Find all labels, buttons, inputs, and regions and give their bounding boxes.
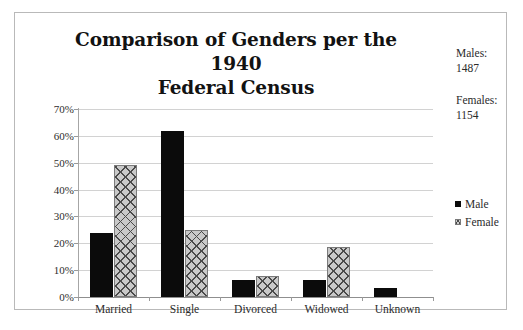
bar-male-widowed[interactable] <box>303 280 326 297</box>
bar-male-unknown[interactable] <box>374 288 397 297</box>
y-axis-tick-label: 20% <box>34 237 74 249</box>
bar-male-single[interactable] <box>161 131 184 298</box>
bar-group <box>220 109 291 297</box>
bar-female-single[interactable] <box>185 230 208 297</box>
x-axis-tick-mark <box>220 297 221 301</box>
x-axis-tick-mark <box>78 297 79 301</box>
chart-frame: Comparison of Genders per the 1940Federa… <box>14 12 507 310</box>
y-axis-tick-label: 30% <box>34 210 74 222</box>
x-axis-tick-label: Unknown <box>375 303 420 315</box>
y-axis-tick-labels: 70%60%50%40%30%20%10%0% <box>30 109 74 297</box>
x-axis-line <box>78 297 434 298</box>
x-axis-tick-label: Married <box>95 303 132 315</box>
annotation-males-count: Males: 1487 <box>456 46 487 75</box>
bar-male-divorced[interactable] <box>232 280 255 297</box>
bar-female-widowed[interactable] <box>327 247 350 297</box>
y-axis-tick-label: 50% <box>34 157 74 169</box>
chart-title-line-1: Comparison of Genders per the 1940 <box>75 29 397 74</box>
legend-swatch-icon-female <box>455 219 461 225</box>
bar-group <box>291 109 362 297</box>
y-axis-tick-label: 0% <box>34 291 74 303</box>
y-axis-tick-label: 40% <box>34 184 74 196</box>
legend-label: Male <box>465 198 489 210</box>
bar-group <box>362 109 433 297</box>
y-axis-tick-label: 70% <box>34 103 74 115</box>
bar-group <box>78 109 149 297</box>
legend-item-male[interactable]: Male <box>455 196 499 211</box>
annotation-females-count: Females: 1154 <box>456 93 498 122</box>
legend-swatch-icon-male <box>455 201 461 207</box>
x-axis-tick-label: Widowed <box>304 303 348 315</box>
legend-label: Female <box>465 216 499 228</box>
x-axis-tick-label: Divorced <box>234 303 277 315</box>
chart-legend: MaleFemale <box>455 196 499 232</box>
x-axis-tick-mark <box>362 297 363 301</box>
bar-female-married[interactable] <box>114 165 137 297</box>
bar-group <box>149 109 220 297</box>
legend-item-female[interactable]: Female <box>455 214 499 229</box>
y-axis-tick-label: 60% <box>34 130 74 142</box>
plot-area <box>78 109 433 297</box>
x-axis-tick-mark <box>433 297 434 301</box>
chart-title: Comparison of Genders per the 1940Federa… <box>51 28 421 100</box>
bar-male-married[interactable] <box>90 233 113 297</box>
y-axis-tick-label: 10% <box>34 264 74 276</box>
bar-female-divorced[interactable] <box>256 276 279 297</box>
x-axis-tick-label: Single <box>170 303 199 315</box>
x-axis-tick-mark <box>149 297 150 301</box>
x-axis-tick-mark <box>291 297 292 301</box>
chart-title-line-2: Federal Census <box>158 77 315 98</box>
